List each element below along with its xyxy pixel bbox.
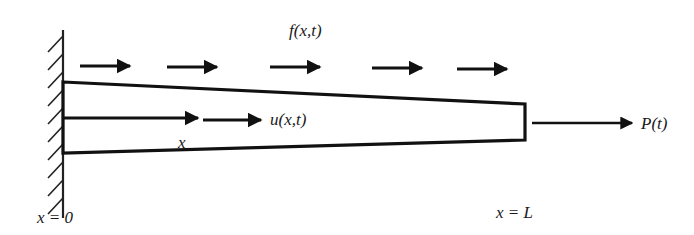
coordinate-label: x <box>178 134 186 151</box>
fixed-wall <box>48 30 63 218</box>
right-boundary-label: x = L <box>496 204 533 221</box>
end-load-label: P(t) <box>641 115 667 132</box>
displacement-arrows <box>63 118 261 120</box>
distributed-load-label: f(x,t) <box>289 22 322 39</box>
left-boundary-label: x = 0 <box>37 209 73 226</box>
tapered-bar-diagram <box>0 0 694 235</box>
displacement-label: u(x,t) <box>270 111 306 128</box>
distributed-load-arrows <box>80 66 507 69</box>
